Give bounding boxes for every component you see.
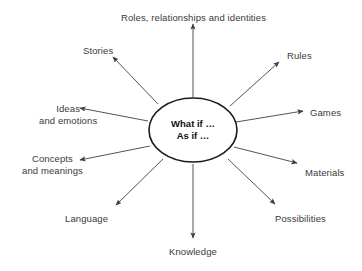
node-label-knowledge: Knowledge	[169, 246, 217, 258]
center-line-2: As if …	[147, 130, 239, 142]
arrow-to-possibilities	[228, 159, 275, 204]
node-label-materials-line-1: Materials	[305, 167, 344, 179]
node-label-ideas-and-emotions: Ideasand emotions	[39, 103, 97, 126]
node-label-possibilities-line-1: Possibilities	[275, 213, 326, 225]
arrow-to-language	[116, 159, 163, 205]
node-label-ideas-and-emotions-line-2: and emotions	[39, 115, 97, 127]
node-label-materials: Materials	[305, 167, 344, 179]
node-label-games-line-1: Games	[310, 107, 341, 119]
node-label-concepts-and-meanings-line-2: and meanings	[22, 165, 83, 177]
arrow-to-stories	[113, 57, 158, 104]
arrow-to-concepts-and-meanings	[80, 146, 150, 160]
node-label-roles: Roles, relationships and identities	[121, 12, 266, 24]
node-label-concepts-and-meanings-line-1: Concepts	[22, 153, 83, 165]
arrow-to-materials	[234, 147, 297, 163]
center-node-text: What if …As if …	[147, 118, 239, 142]
node-label-games: Games	[310, 107, 341, 119]
node-label-language: Language	[65, 213, 108, 225]
node-label-stories-line-1: Stories	[83, 45, 113, 57]
center-line-1: What if …	[147, 118, 239, 130]
node-label-stories: Stories	[83, 45, 113, 57]
node-label-rules-line-1: Rules	[287, 50, 312, 62]
node-label-possibilities: Possibilities	[275, 213, 326, 225]
node-label-knowledge-line-1: Knowledge	[169, 246, 217, 258]
node-label-language-line-1: Language	[65, 213, 108, 225]
node-label-concepts-and-meanings: Conceptsand meanings	[22, 153, 83, 176]
node-label-roles-line-1: Roles, relationships and identities	[121, 12, 266, 24]
node-label-rules: Rules	[287, 50, 312, 62]
arrow-to-rules	[230, 62, 279, 106]
concept-map-diagram: What if …As if … Roles, relationships an…	[0, 0, 362, 271]
node-label-ideas-and-emotions-line-1: Ideas	[39, 103, 97, 115]
arrow-to-games	[236, 111, 303, 122]
